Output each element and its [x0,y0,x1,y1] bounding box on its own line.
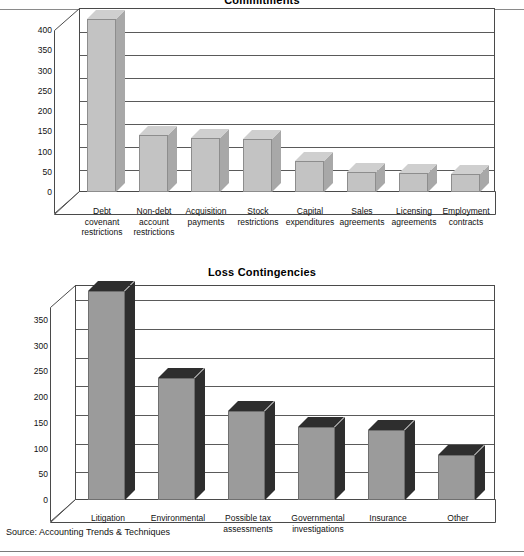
x-axis-tick-label-line: Debt [76,206,128,217]
bars-commitments [79,8,495,192]
bar-column [438,455,474,500]
bar-column [87,19,116,192]
bar-front-face [88,291,124,500]
bar-side-face [405,420,415,500]
y-axis-tick-label: 250 [6,86,52,96]
bar-column [191,138,220,192]
x-axis-tick-label-line: Employment [440,206,492,217]
bar-column [158,378,194,500]
x-axis-tick-label: Litigation [73,513,143,524]
y-axis-tick-label: 150 [6,126,52,136]
x-axis-tick-label-line: restrictions [232,217,284,228]
bar-column [298,427,334,500]
x-axis-tick-label-line: payments [180,217,232,228]
bar-front-face [87,19,116,192]
x-axis-tick-label-line: Capital [284,206,336,217]
bar-front-face [228,411,264,500]
y-axis-tick-label: 350 [6,315,48,325]
bar-column [228,411,264,500]
x-axis-tick-label: Acquisitionpayments [180,206,232,227]
bar-side-face [272,130,281,192]
x-axis-tick-label-line: contracts [440,217,492,228]
figure-page: Commitments 050100150200250300350400 Deb… [0,0,524,556]
x-axis-tick-label: Other [423,513,493,524]
bar-column [368,430,404,500]
y-axis-tick-label: 400 [6,25,52,35]
x-axis-tick-label-line: restrictions [76,227,128,238]
x-axis-tick-label: Non-debtaccountrestrictions [128,206,180,238]
bar-column [451,174,480,192]
bar-column [347,172,376,192]
bar-front-face [298,427,334,500]
x-axis-tick-label-line: Insurance [353,513,423,524]
bottom-divider [0,551,524,552]
x-axis-tick-label-line: Licensing [388,206,440,217]
x-axis-tick-label-line: agreements [336,217,388,228]
x-axis-tick-label-line: restrictions [128,227,180,238]
x-axis-tick-label-line: agreements [388,217,440,228]
x-axis-tick-label-line: Environmental [143,513,213,524]
bar-front-face [158,378,194,500]
x-axis-tick-label-line: expenditures [284,217,336,228]
x-axis-tick-label-line: Acquisition [180,206,232,217]
x-axis-tick-label: Environmental [143,513,213,524]
bar-column [399,173,428,192]
axis-wall-loss-contingencies [50,285,76,522]
y-axis-tick-label: 250 [6,366,48,376]
x-axis-tick-label-line: Other [423,513,493,524]
x-axis-tick-label: Insurance [353,513,423,524]
bars-loss-contingencies [75,285,495,500]
y-axis-tick-label: 350 [6,45,52,55]
bar-front-face [139,135,168,192]
y-axis-tick-label: 300 [6,66,52,76]
source-note: Source: Accounting Trends & Techniques [6,527,170,537]
bar-front-face [451,174,480,192]
bar-side-face [265,401,275,500]
bar-front-face [243,139,272,192]
x-axis-tick-label-line: Possible tax [213,513,283,524]
x-axis-tick-label-line: covenant [76,217,128,228]
bar-front-face [368,430,404,500]
y-axis-tick-label: 50 [6,469,48,479]
y-axis-tick-label: 100 [6,147,52,157]
bar-front-face [295,161,324,192]
chart-loss-contingencies: Loss Contingencies 050100150200250300350… [0,262,524,524]
y-axis-loss-contingencies: 050100150200250300350 [0,262,48,524]
x-axis-tick-label-line: Sales [336,206,388,217]
x-axis-tick-label: Possible taxassessments [213,513,283,534]
y-axis-tick-label: 0 [6,187,52,197]
bar-column [295,161,324,192]
bar-side-face [116,10,125,192]
x-axis-tick-label-line: Stock [232,206,284,217]
bar-column [139,135,168,192]
x-axis-tick-label-line: Non-debt [128,206,180,217]
bar-side-face [220,129,229,192]
bar-column [88,291,124,500]
y-axis-tick-label: 100 [6,444,48,454]
x-axis-tick-label-line: investigations [283,524,353,535]
bar-side-face [168,126,177,192]
bar-front-face [438,455,474,500]
x-axis-tick-label-line: assessments [213,524,283,535]
chart-title-loss-contingencies: Loss Contingencies [0,266,524,278]
y-axis-tick-label: 0 [6,495,48,505]
y-axis-tick-label: 300 [6,341,48,351]
y-axis-tick-label: 200 [6,106,52,116]
x-axis-tick-label: Salesagreements [336,206,388,227]
y-axis-tick-label: 50 [6,167,52,177]
chart-title-commitments: Commitments [0,0,524,6]
x-axis-tick-label: Licensingagreements [388,206,440,227]
x-axis-tick-label-line: Litigation [73,513,143,524]
y-axis-tick-label: 150 [6,418,48,428]
x-axis-tick-label-line: account [128,217,180,228]
bar-side-face [125,281,135,500]
x-axis-tick-label-line: Governmental [283,513,353,524]
x-axis-tick-label: Employmentcontracts [440,206,492,227]
x-axis-tick-label: Capitalexpenditures [284,206,336,227]
bar-front-face [347,172,376,192]
bar-side-face [475,445,485,500]
y-axis-tick-label: 200 [6,392,48,402]
chart-commitments: Commitments 050100150200250300350400 Deb… [0,0,524,256]
x-axis-tick-label: Debtcovenantrestrictions [76,206,128,238]
x-axis-commitments: DebtcovenantrestrictionsNon-debtaccountr… [54,206,496,252]
